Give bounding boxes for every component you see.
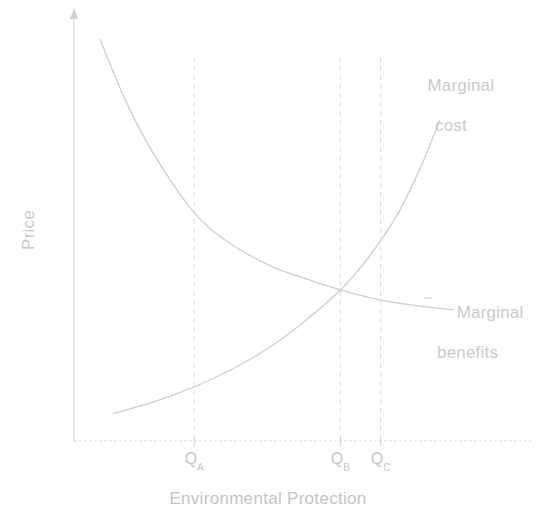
x-tick-label-qc-base: Q bbox=[371, 450, 383, 467]
marginal-benefits-label-line1: Marginal bbox=[457, 303, 524, 322]
x-tick-label-qb: QB bbox=[320, 450, 360, 470]
chart-container: Price Environmental Protection Marginal … bbox=[0, 0, 536, 519]
marginal-benefits-label-line2: benefits bbox=[437, 343, 536, 363]
y-axis-title: Price bbox=[6, 175, 52, 285]
x-axis-title: Environmental Protection bbox=[0, 489, 536, 509]
x-tick-label-qc: QC bbox=[361, 450, 401, 470]
x-tick-label-qa: QA bbox=[174, 450, 214, 470]
x-tick-label-qb-base: Q bbox=[331, 450, 343, 467]
y-axis-arrow-icon bbox=[70, 8, 78, 19]
x-tick-label-qa-subscript: A bbox=[197, 462, 204, 473]
x-tick-label-qa-base: Q bbox=[185, 450, 197, 467]
marginal-cost-label: Marginal cost bbox=[386, 56, 516, 176]
marginal-cost-label-line1: Marginal bbox=[427, 76, 494, 95]
marginal-cost-label-line2: cost bbox=[386, 116, 516, 136]
y-axis-title-text: Price bbox=[6, 175, 52, 285]
x-tick-label-qb-subscript: B bbox=[343, 462, 350, 473]
x-tick-label-qc-subscript: C bbox=[383, 462, 390, 473]
marginal-benefits-label: Marginal benefits bbox=[437, 283, 536, 403]
